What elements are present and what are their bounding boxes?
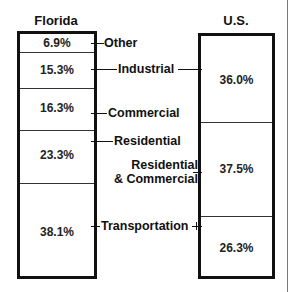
us-res-comm-value: 37.5%	[201, 162, 272, 176]
label-res-comm-line2: & Commercial	[100, 172, 198, 186]
page-rule	[287, 0, 288, 292]
label-transportation: Transportation	[101, 219, 189, 233]
leader-line	[192, 226, 202, 227]
us-column: 36.0% 37.5% 26.3%	[198, 33, 275, 279]
florida-transportation-value: 38.1%	[20, 225, 94, 239]
us-transportation-value: 26.3%	[201, 241, 272, 255]
leader-line	[91, 141, 113, 142]
leader-line	[91, 69, 117, 70]
leader-line	[178, 69, 202, 70]
florida-residential-value: 23.3%	[20, 148, 94, 162]
florida-divider	[20, 130, 94, 131]
us-header: U.S.	[196, 13, 276, 28]
us-divider	[201, 122, 272, 123]
label-commercial: Commercial	[108, 106, 180, 120]
florida-commercial-value: 16.3%	[20, 101, 94, 115]
label-other: Other	[104, 36, 137, 50]
leader-tick	[95, 40, 96, 46]
florida-header: Florida	[10, 13, 102, 28]
leader-line	[91, 226, 100, 227]
florida-divider	[20, 88, 94, 89]
leader-line	[91, 43, 104, 44]
us-divider	[201, 216, 272, 217]
florida-other-value: 6.9%	[20, 36, 94, 50]
label-res-comm-line1: Residential	[118, 158, 198, 172]
leader-line	[193, 172, 202, 173]
us-industrial-value: 36.0%	[201, 73, 272, 87]
label-residential: Residential	[114, 134, 181, 148]
label-industrial: Industrial	[118, 62, 174, 76]
florida-industrial-value: 15.3%	[20, 63, 94, 77]
florida-divider	[20, 183, 94, 184]
leader-line	[91, 113, 107, 114]
florida-divider	[20, 52, 94, 53]
florida-column: 6.9% 15.3% 16.3% 23.3% 38.1%	[17, 31, 97, 279]
leader-tick	[196, 222, 197, 230]
